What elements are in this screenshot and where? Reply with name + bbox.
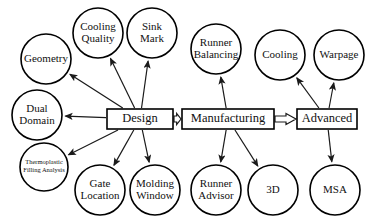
edge-design-to-cooling-quality [111,59,135,108]
node-label-runner-advisor: RunnerAdvisor [198,176,234,200]
node-gate-location[interactable]: GateLocation [75,165,125,215]
node-runner-advisor[interactable]: RunnerAdvisor [191,165,241,215]
node-label-molding-window: MoldingWindow [136,176,174,200]
node-sink-mark[interactable]: SinkMark [127,8,177,58]
stage-design[interactable]: Design [107,109,173,129]
node-label-sink-mark: SinkMark [140,19,164,43]
diagram-canvas: GeometryCoolingQualitySinkMarkRunnerBala… [0,0,371,224]
node-label-runner-balancing: RunnerBalancing [194,35,239,59]
stage-manufacturing[interactable]: Manufacturing [182,109,274,129]
node-geometry[interactable]: Geometry [21,34,71,84]
node-label-3d: 3D [266,183,280,195]
flowchart-diagram: GeometryCoolingQualitySinkMarkRunnerBala… [0,0,371,224]
node-label-msa: MSA [323,183,347,195]
edge-design-to-gate-location [114,130,134,165]
stage-label-design: Design [122,111,158,125]
node-runner-balancing[interactable]: RunnerBalancing [191,24,241,74]
edge-design-to-geometry [70,74,123,108]
node-3d[interactable]: 3D [248,165,298,215]
edge-manufacturing-to-runner-balancing [221,77,226,108]
edge-design-to-dual-domain [65,116,106,118]
stage-advanced[interactable]: Advanced [297,109,357,129]
node-label-geometry: Geometry [24,52,68,64]
edge-design-to-molding-window [142,130,149,162]
node-dual-domain[interactable]: DualDomain [12,90,62,140]
stage-label-advanced: Advanced [302,111,353,125]
node-cooling-quality[interactable]: CoolingQuality [73,8,123,58]
node-cooling[interactable]: Cooling [255,30,305,80]
edge-manufacturing-to-runner-advisor [221,130,226,162]
node-label-thermoplastic-filling-analysis: ThermoplasticFilling Analysis [23,159,65,173]
node-label-cooling-quality: CoolingQuality [80,19,116,43]
node-warpage[interactable]: Warpage [314,30,364,80]
node-msa[interactable]: MSA [310,165,360,215]
edge-design-to-sink-mark [142,61,149,108]
edge-advanced-to-cooling [297,78,319,108]
edge-design-to-thermoplastic-filling-analysis [69,130,118,155]
nodes-layer: GeometryCoolingQualitySinkMarkRunnerBala… [12,8,364,215]
node-molding-window[interactable]: MoldingWindow [130,165,180,215]
edge-manufacturing-to-advanced [275,114,296,125]
node-thermoplastic-filling-analysis[interactable]: ThermoplasticFilling Analysis [20,143,68,191]
node-label-cooling: Cooling [262,48,298,60]
edge-advanced-to-warpage [329,83,334,108]
edge-advanced-to-msa [328,130,332,162]
node-label-warpage: Warpage [320,48,359,60]
edge-manufacturing-to-3d [235,130,258,166]
stage-label-manufacturing: Manufacturing [191,111,266,125]
edge-design-to-manufacturing [174,114,181,125]
